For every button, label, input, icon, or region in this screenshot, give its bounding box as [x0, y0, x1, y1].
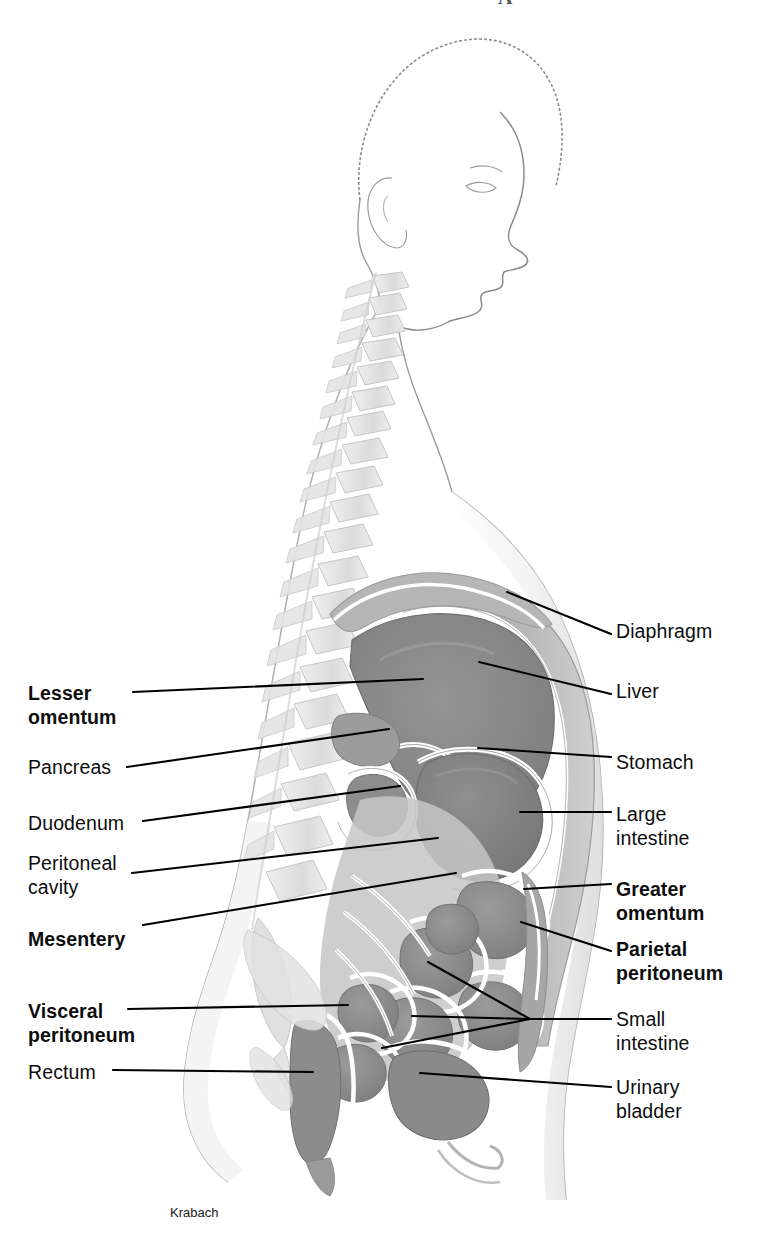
label-urinary-bladder: Urinary bladder — [616, 1076, 682, 1123]
label-mesentery: Mesentery — [28, 928, 125, 952]
label-lesser-omentum: Lesser omentum — [28, 682, 116, 729]
label-small-intestine: Small intestine — [616, 1008, 690, 1055]
label-pancreas: Pancreas — [28, 756, 111, 780]
label-peritoneal-cavity: Peritoneal cavity — [28, 852, 117, 899]
label-visceral-peritoneum: Visceral peritoneum — [28, 1000, 135, 1047]
label-diaphragm: Diaphragm — [616, 620, 712, 644]
label-large-intestine: Large intestine — [616, 803, 690, 850]
label-greater-omentum: Greater omentum — [616, 878, 704, 925]
label-duodenum: Duodenum — [28, 812, 124, 836]
artist-credit: Krabach — [170, 1205, 218, 1220]
label-parietal-peritoneum: Parietal peritoneum — [616, 938, 723, 985]
urinary-bladder-organ — [388, 1041, 502, 1182]
label-rectum: Rectum — [28, 1061, 96, 1085]
rectum-organ — [288, 1009, 354, 1196]
label-liver: Liver — [616, 680, 659, 704]
label-stomach: Stomach — [616, 751, 694, 775]
anatomy-figure: A — [0, 0, 764, 1257]
